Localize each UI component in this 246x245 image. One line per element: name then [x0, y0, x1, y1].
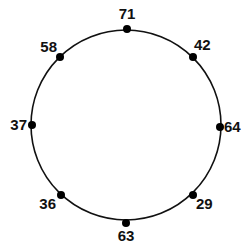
- point-label: 42: [194, 36, 211, 53]
- point-dot: [123, 25, 131, 33]
- point-label: 71: [119, 5, 136, 22]
- point-label: 64: [224, 118, 241, 135]
- number-circle-diagram: 7142642963363758: [0, 0, 246, 245]
- point-label: 58: [40, 38, 57, 55]
- point-dot: [28, 121, 36, 129]
- point-dot: [189, 53, 197, 61]
- point-label: 63: [118, 227, 135, 244]
- point-dot: [216, 123, 224, 131]
- point-dot: [122, 219, 130, 227]
- point-label: 37: [10, 116, 27, 133]
- point-label: 36: [39, 195, 56, 212]
- point-dot: [56, 53, 64, 61]
- point-label: 29: [196, 195, 213, 212]
- point-dot: [57, 191, 65, 199]
- points-group: 7142642963363758: [10, 5, 241, 244]
